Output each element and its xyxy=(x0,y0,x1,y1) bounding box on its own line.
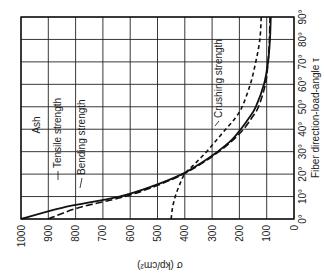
angle-tick-label: 80° xyxy=(297,32,308,47)
angle-tick-label: 0° xyxy=(297,214,308,224)
crushing-strength-label: Crushing strength xyxy=(213,39,224,118)
sigma-tick-label: 0 xyxy=(289,225,300,231)
sigma-tick-label: 300 xyxy=(207,225,218,242)
sigma-axis-label: σ (kp/cm²) xyxy=(137,260,183,271)
crushing-label-leader xyxy=(215,121,219,126)
angle-tick-label: 10° xyxy=(297,189,308,204)
angle-tick-label: 40° xyxy=(297,122,308,137)
strength-vs-angle-chart: 10009008007006005004003002001000 0°10°20… xyxy=(0,0,324,274)
tensile-strength-label: Tensile strength xyxy=(52,98,63,168)
angle-axis-ticks: 0°10°20°30°40°50°60°70°80°90° xyxy=(297,9,308,223)
sigma-tick-label: 800 xyxy=(70,225,81,242)
sigma-tick-label: 1000 xyxy=(16,225,27,248)
angle-tick-label: 50° xyxy=(297,99,308,114)
angle-tick-label: 20° xyxy=(297,167,308,182)
sigma-tick-label: 600 xyxy=(125,225,136,242)
angle-tick-label: 70° xyxy=(297,54,308,69)
sigma-tick-label: 400 xyxy=(179,225,190,242)
angle-tick-label: 60° xyxy=(297,77,308,92)
angle-tick-label: 30° xyxy=(297,144,308,159)
sigma-tick-label: 700 xyxy=(97,225,108,242)
sigma-axis-ticks: 10009008007006005004003002001000 xyxy=(16,225,300,248)
angle-tick-label: 90° xyxy=(297,9,308,24)
sigma-tick-label: 100 xyxy=(261,225,272,242)
bending-label-leader xyxy=(80,178,82,188)
material-label: Ash xyxy=(31,116,42,133)
bending-strength-label: Bending strength xyxy=(76,99,87,175)
sigma-tick-label: 500 xyxy=(152,225,163,242)
sigma-tick-label: 200 xyxy=(234,225,245,242)
sigma-tick-label: 900 xyxy=(43,225,54,242)
angle-axis-label: Fiber direction-load-angle τ xyxy=(310,58,321,178)
